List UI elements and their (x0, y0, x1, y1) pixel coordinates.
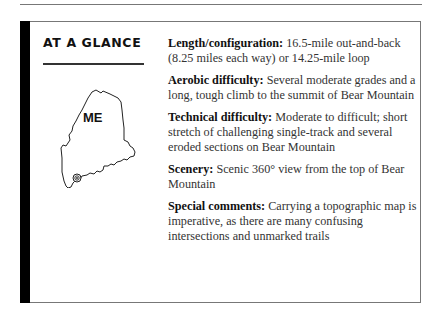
top-divider (20, 4, 422, 5)
detail-aerobic: Aerobic difficulty: Several moderate gra… (168, 73, 418, 103)
detail-label: Special comments: (168, 199, 265, 213)
left-accent-bar (20, 21, 30, 303)
maine-state-map-icon (54, 88, 144, 188)
detail-label: Technical difficulty: (168, 110, 272, 124)
detail-technical: Technical difficulty: Moderate to diffic… (168, 110, 418, 155)
detail-special-comments: Special comments: Carrying a topographic… (168, 199, 418, 244)
detail-length: Length/configuration: 16.5-mile out-and-… (168, 36, 418, 66)
state-label: ME (83, 110, 103, 125)
target-location-icon (73, 174, 81, 182)
detail-scenery: Scenery: Scenic 360° view from the top o… (168, 162, 418, 192)
heading-underline (43, 63, 144, 65)
trail-details: Length/configuration: 16.5-mile out-and-… (168, 36, 418, 251)
detail-label: Length/configuration: (168, 36, 283, 50)
detail-label: Scenery: (168, 162, 213, 176)
section-heading: AT A GLANCE (43, 35, 141, 50)
detail-label: Aerobic difficulty: (168, 73, 264, 87)
